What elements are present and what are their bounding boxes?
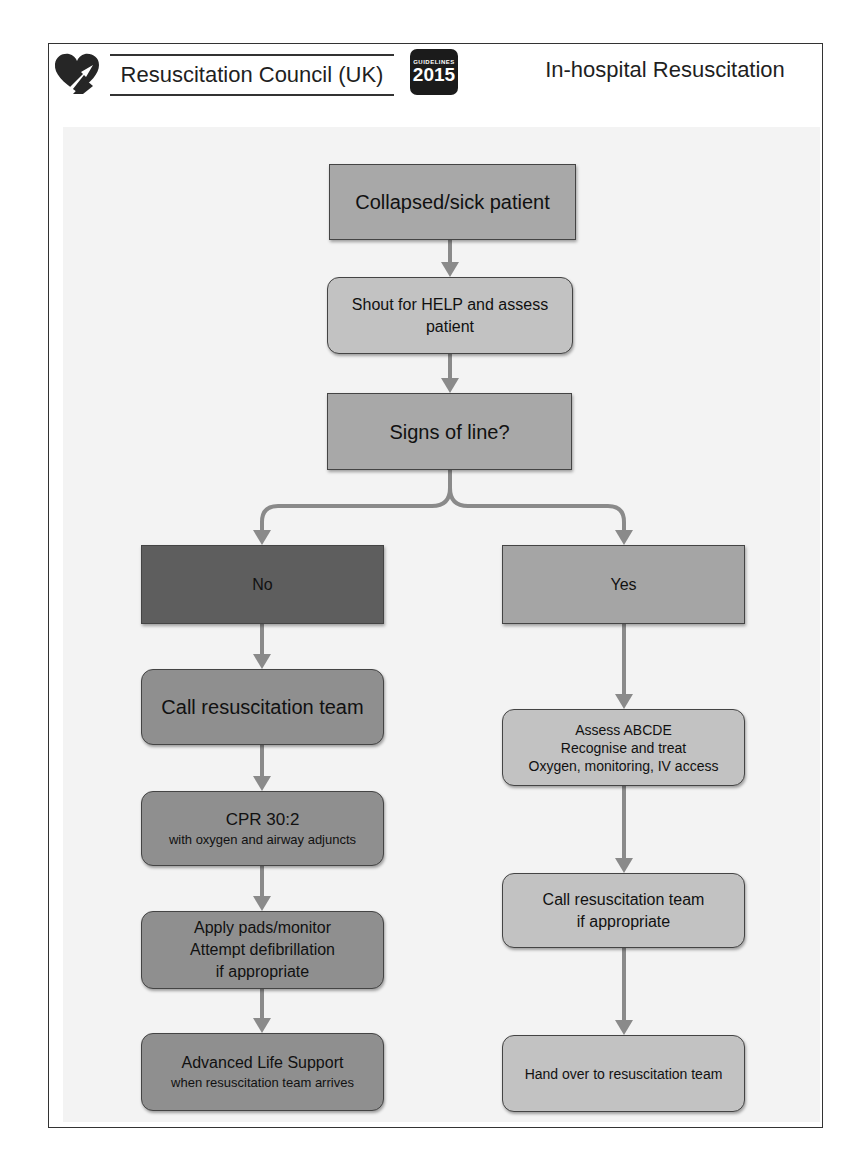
- shout-for-help-box: Shout for HELP and assess patient: [327, 277, 573, 354]
- assess-abcde-box: Assess ABCDE Recognise and treat Oxygen,…: [502, 709, 745, 786]
- abcde-line-3: Oxygen, monitoring, IV access: [529, 757, 719, 775]
- als-title: Advanced Life Support: [182, 1052, 344, 1074]
- hand-over-text: Hand over to resuscitation team: [525, 1065, 723, 1083]
- call-team-yes-line-1: Call resuscitation team: [543, 889, 705, 911]
- page-title: In-hospital Resuscitation: [535, 57, 795, 83]
- yes-branch-box: Yes: [502, 545, 745, 624]
- heart-logo-icon: [53, 52, 101, 94]
- shout-line-1: Shout for HELP and assess: [352, 294, 548, 316]
- yes-label: Yes: [610, 574, 636, 596]
- call-team-if-appropriate-box: Call resuscitation team if appropriate: [502, 873, 745, 948]
- defib-line-2: Attempt defibrillation: [190, 939, 335, 961]
- hand-over-box: Hand over to resuscitation team: [502, 1035, 745, 1112]
- call-resuscitation-team-box: Call resuscitation team: [141, 669, 384, 745]
- organization-name: Resuscitation Council (UK): [110, 54, 394, 96]
- decision-box-signs-of-life: Signs of line?: [327, 393, 572, 470]
- no-branch-box: No: [141, 545, 384, 624]
- abcde-line-1: Assess ABCDE: [575, 721, 671, 739]
- shout-line-2: patient: [426, 316, 474, 338]
- decision-text: Signs of line?: [389, 420, 509, 444]
- cpr-title: CPR 30:2: [226, 809, 300, 831]
- call-team-yes-line-2: if appropriate: [577, 911, 670, 933]
- start-box-text: Collapsed/sick patient: [355, 190, 550, 214]
- cpr-box: CPR 30:2 with oxygen and airway adjuncts: [141, 791, 384, 866]
- defib-line-3: if appropriate: [216, 961, 309, 983]
- defibrillation-box: Apply pads/monitor Attempt defibrillatio…: [141, 911, 384, 989]
- als-sub: when resuscitation team arrives: [171, 1074, 354, 1092]
- defib-line-1: Apply pads/monitor: [194, 917, 331, 939]
- badge-year: 2015: [413, 65, 455, 85]
- advanced-life-support-box: Advanced Life Support when resuscitation…: [141, 1033, 384, 1111]
- cpr-sub: with oxygen and airway adjuncts: [169, 831, 356, 849]
- start-box-collapsed-patient: Collapsed/sick patient: [329, 164, 576, 240]
- call-team-text: Call resuscitation team: [161, 695, 363, 719]
- guidelines-2015-badge: GUIDELINES 2015: [410, 49, 458, 95]
- abcde-line-2: Recognise and treat: [561, 739, 686, 757]
- no-label: No: [252, 574, 272, 596]
